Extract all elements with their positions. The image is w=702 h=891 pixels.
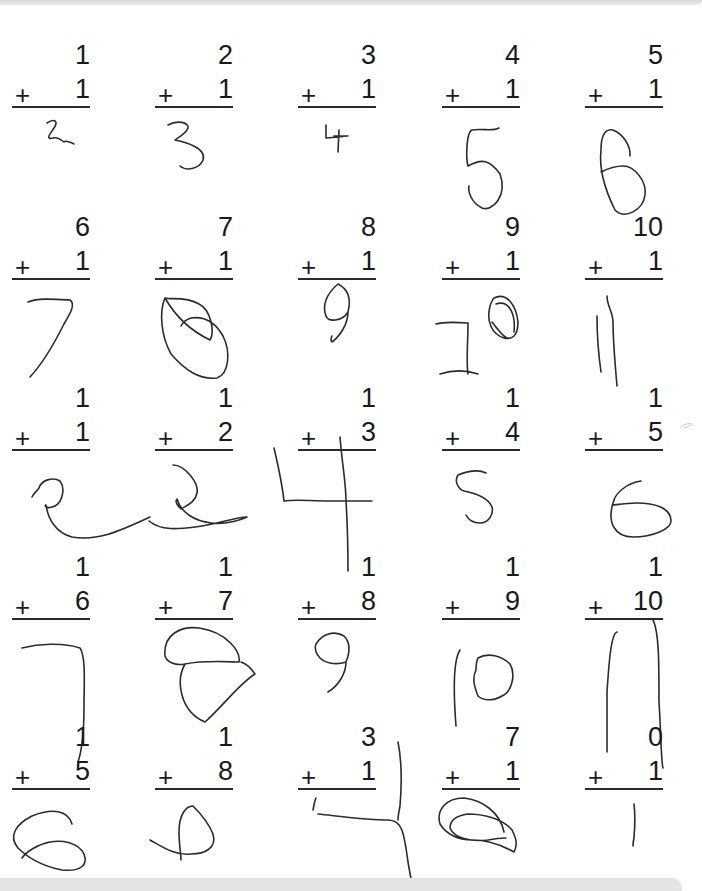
handwritten-answer xyxy=(298,622,378,702)
sum-line xyxy=(298,788,376,790)
sum-line xyxy=(585,618,663,620)
top-number: 1 xyxy=(75,383,90,413)
addition-worksheet: 1 + 1 2 2 + 1 3 + 1 4 + 1 5 xyxy=(0,0,702,891)
plus-sign: + xyxy=(445,594,460,620)
sum-line xyxy=(298,106,376,108)
plus-sign: + xyxy=(588,82,603,108)
top-number: 1 xyxy=(75,40,90,70)
handwritten-answer xyxy=(12,453,92,533)
handwritten-answer xyxy=(12,282,92,362)
problem-r4-c3: 1 + 8 xyxy=(298,552,378,702)
plus-sign: + xyxy=(15,594,30,620)
handwritten-answer xyxy=(585,622,665,702)
sum-line xyxy=(298,278,376,280)
sum-line xyxy=(585,278,663,280)
problem-r3-c1: 1 + 1 xyxy=(12,383,92,533)
problem-r1-c4: 4 + 1 xyxy=(442,40,522,190)
plus-sign: + xyxy=(15,254,30,280)
addend: 3 xyxy=(361,417,376,447)
sum-line xyxy=(585,449,663,451)
addend: 1 xyxy=(505,246,520,276)
addend: 6 xyxy=(75,586,90,616)
top-number: 1 xyxy=(505,383,520,413)
addend: 1 xyxy=(75,246,90,276)
top-number: 1 xyxy=(505,552,520,582)
handwritten-answer xyxy=(155,622,235,702)
sum-line xyxy=(12,278,90,280)
sum-line xyxy=(155,278,233,280)
top-number: 1 xyxy=(218,383,233,413)
handwritten-answer xyxy=(155,110,235,190)
problem-r2-c3: 8 + 1 xyxy=(298,212,378,362)
sum-line xyxy=(442,788,520,790)
problem-r2-c1: 6 + 1 xyxy=(12,212,92,362)
plus-sign: + xyxy=(588,764,603,790)
problem-r3-c2: 1 + 2 xyxy=(155,383,235,533)
plus-sign: + xyxy=(301,254,316,280)
plus-sign: + xyxy=(588,594,603,620)
top-number: 0 xyxy=(648,722,663,752)
plus-sign: + xyxy=(158,82,173,108)
handwritten-answer xyxy=(585,110,665,190)
handwritten-answer xyxy=(585,453,665,533)
plus-sign: + xyxy=(158,254,173,280)
problem-r2-c5: 10 + 1 xyxy=(585,212,665,362)
addend: 1 xyxy=(75,417,90,447)
addend: 8 xyxy=(218,756,233,786)
problem-r5-c3: 3 + 1 xyxy=(298,722,378,872)
sum-line xyxy=(298,618,376,620)
addend: 8 xyxy=(361,586,376,616)
handwritten-answer xyxy=(442,792,522,872)
problem-r5-c5: 0 + 1 xyxy=(585,722,665,872)
problem-r1-c2: 2 + 1 xyxy=(155,40,235,190)
handwritten-answer xyxy=(155,792,235,872)
problem-r2-c4: 9 + 1 xyxy=(442,212,522,362)
problem-r5-c1: 1 + 5 xyxy=(12,722,92,872)
plus-sign: + xyxy=(301,82,316,108)
problem-r4-c5: 1 + 10 xyxy=(585,552,665,702)
handwritten-answer xyxy=(585,282,665,362)
problem-r4-c1: 1 + 6 xyxy=(12,552,92,702)
top-number: 9 xyxy=(505,212,520,242)
sum-line xyxy=(12,106,90,108)
problem-r1-c5: 5 + 1 xyxy=(585,40,665,190)
addend: 1 xyxy=(648,74,663,104)
sum-line xyxy=(155,618,233,620)
top-number: 1 xyxy=(361,552,376,582)
problem-r4-c4: 1 + 9 xyxy=(442,552,522,702)
handwritten-answer xyxy=(12,622,92,702)
handwritten-answer xyxy=(442,453,522,533)
addend: 1 xyxy=(648,246,663,276)
addend: 1 xyxy=(505,756,520,786)
sum-line xyxy=(155,449,233,451)
sum-line xyxy=(585,788,663,790)
sum-line xyxy=(12,618,90,620)
plus-sign: + xyxy=(588,254,603,280)
problem-r5-c2: 1 + 8 xyxy=(155,722,235,872)
sum-line xyxy=(155,106,233,108)
top-number: 2 xyxy=(218,40,233,70)
problem-r4-c2: 1 + 7 xyxy=(155,552,235,702)
addend: 1 xyxy=(75,74,90,104)
plus-sign: + xyxy=(15,425,30,451)
top-number: 6 xyxy=(75,212,90,242)
handwritten-answer xyxy=(585,792,665,872)
sum-line xyxy=(155,788,233,790)
addend: 2 xyxy=(218,417,233,447)
plus-sign: + xyxy=(158,764,173,790)
addend: 1 xyxy=(218,246,233,276)
sum-line xyxy=(442,449,520,451)
plus-sign: + xyxy=(445,425,460,451)
sum-line xyxy=(442,106,520,108)
stray-pencil-mark xyxy=(678,420,698,432)
addend: 9 xyxy=(505,586,520,616)
handwritten-answer xyxy=(442,282,522,362)
top-number: 1 xyxy=(218,552,233,582)
handwritten-answer xyxy=(298,453,378,533)
plus-sign: + xyxy=(158,594,173,620)
handwritten-answer xyxy=(298,110,378,190)
top-number: 5 xyxy=(648,40,663,70)
sum-line xyxy=(585,106,663,108)
plus-sign: + xyxy=(445,254,460,280)
top-number: 1 xyxy=(361,383,376,413)
